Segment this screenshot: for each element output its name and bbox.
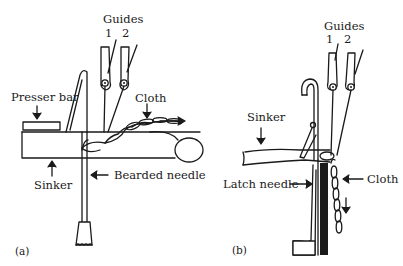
panel-a-drawing	[22, 40, 203, 245]
panel-b-drawing	[243, 44, 363, 255]
knitting-diagram	[0, 0, 403, 266]
cloth-loops-a	[82, 118, 182, 152]
sinker-label-a: Sinker	[34, 180, 72, 192]
guide-1-number-a: 1	[105, 28, 112, 40]
latch-needle-shaft	[320, 163, 328, 255]
guides-label-b: Guides	[324, 21, 364, 33]
guide-2-a	[108, 45, 137, 132]
bearded-needle-label: Bearded needle	[114, 170, 206, 182]
guide-2-number-b: 2	[344, 34, 351, 46]
cloth-chain-b	[331, 159, 342, 233]
sinker-label-b: Sinker	[247, 112, 285, 124]
guides-label-a: Guides	[103, 14, 143, 26]
cloth-label-b: Cloth	[367, 174, 398, 186]
presser-bar	[23, 122, 60, 130]
caption-a: (a)	[15, 246, 29, 257]
cloth-label-a: Cloth	[135, 93, 166, 105]
presser-bar-label: Presser bar	[11, 92, 79, 104]
latch-needle-label: Latch needle	[223, 179, 298, 191]
guide-2-b	[337, 50, 363, 155]
guide-1-b	[328, 44, 339, 155]
guide-2-number-a: 2	[122, 28, 129, 40]
guide-1-number-b: 1	[326, 34, 333, 46]
guide-1-a	[101, 40, 116, 132]
caption-b: (b)	[232, 245, 247, 256]
